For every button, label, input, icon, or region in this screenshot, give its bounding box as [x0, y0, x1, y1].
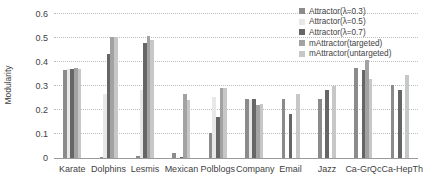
bar-email-series4 — [296, 94, 300, 158]
bar-jazz-series2 — [325, 90, 329, 158]
bar-mexican-series4 — [187, 100, 191, 158]
bar-company-series4 — [260, 104, 264, 158]
bar-jazz-series4 — [332, 86, 336, 158]
y-axis-title: Modularity — [3, 55, 13, 115]
bar-ca-grqc-series4 — [369, 79, 373, 158]
modularity-bar-chart: Modularity 00.10.20.30.40.50.6 KarateDol… — [0, 0, 444, 183]
x-tick-label-ca-grqc: Ca-GrQc — [345, 164, 381, 174]
legend-item-1: Attractor(λ=0.5) — [299, 17, 391, 28]
legend-label: Attractor(λ=0.3) — [309, 7, 366, 16]
y-tick-label-0.1: 0.1 — [18, 129, 48, 139]
legend-item-0: Attractor(λ=0.3) — [299, 6, 391, 17]
bar-jazz-series0 — [318, 99, 322, 158]
y-tick-label-0: 0 — [18, 153, 48, 163]
legend: Attractor(λ=0.3)Attractor(λ=0.5)Attracto… — [299, 6, 391, 59]
bar-ca-grqc-series0 — [354, 68, 358, 158]
legend-label: Attractor(λ=0.5) — [309, 17, 366, 26]
x-tick-label-lesmis: Lesmis — [127, 164, 163, 174]
x-tick-label-ca-hepth: Ca-HepTh — [382, 164, 418, 174]
x-tick-label-karate: Karate — [54, 164, 90, 174]
y-tick-label-0.4: 0.4 — [18, 57, 48, 67]
x-tick-label-mexican: Mexican — [163, 164, 199, 174]
bar-ca-hepth-series0 — [391, 85, 395, 158]
legend-item-2: Attractor(λ=0.7) — [299, 27, 391, 38]
legend-label: mAttractor(untargeted) — [309, 49, 391, 58]
legend-swatch-icon — [299, 8, 305, 14]
x-tick-label-company: Company — [236, 164, 272, 174]
y-tick-label-0.3: 0.3 — [18, 81, 48, 91]
bar-karate-series4 — [78, 69, 82, 158]
legend-item-4: mAttractor(untargeted) — [299, 48, 391, 59]
legend-item-3: mAttractor(targeted) — [299, 38, 391, 49]
x-tick-label-dolphins: Dolphins — [90, 164, 126, 174]
legend-label: mAttractor(targeted) — [309, 39, 382, 48]
legend-swatch-icon — [299, 51, 305, 57]
bar-ca-hepth-series4 — [405, 75, 409, 158]
x-tick-label-polblogs: Polblogs — [200, 164, 236, 174]
bar-dolphins-series4 — [114, 37, 118, 158]
bar-email-series0 — [282, 99, 286, 158]
x-tick-label-email: Email — [272, 164, 308, 174]
legend-swatch-icon — [299, 19, 305, 25]
x-tick-label-jazz: Jazz — [309, 164, 345, 174]
legend-label: Attractor(λ=0.7) — [309, 28, 366, 37]
bar-lesmis-series4 — [150, 40, 154, 158]
y-tick-label-0.5: 0.5 — [18, 33, 48, 43]
legend-swatch-icon — [299, 40, 305, 46]
y-tick-label-0.2: 0.2 — [18, 105, 48, 115]
legend-swatch-icon — [299, 29, 305, 35]
bar-email-series2 — [289, 114, 293, 158]
y-tick-label-0.6: 0.6 — [18, 9, 48, 19]
bar-polblogs-series4 — [223, 88, 227, 158]
bar-ca-hepth-series2 — [398, 90, 402, 158]
bar-mexican-series0 — [172, 153, 176, 158]
